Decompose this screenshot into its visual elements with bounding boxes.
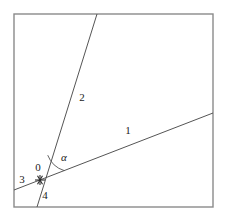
angle-label-alpha: α — [61, 151, 67, 163]
line-2 — [37, 14, 97, 207]
ray-label-3: 3 — [19, 173, 25, 185]
asterisk-marker — [35, 175, 45, 185]
vertex-label-0: 0 — [35, 161, 41, 173]
ray-label-4: 4 — [42, 189, 48, 201]
geometry-figure: 0 α 1 2 3 4 — [0, 0, 228, 221]
line-label-2: 2 — [79, 91, 85, 103]
line-label-1: 1 — [125, 124, 131, 136]
line-1 — [14, 113, 213, 190]
figure-canvas: 0 α 1 2 3 4 — [0, 0, 228, 221]
